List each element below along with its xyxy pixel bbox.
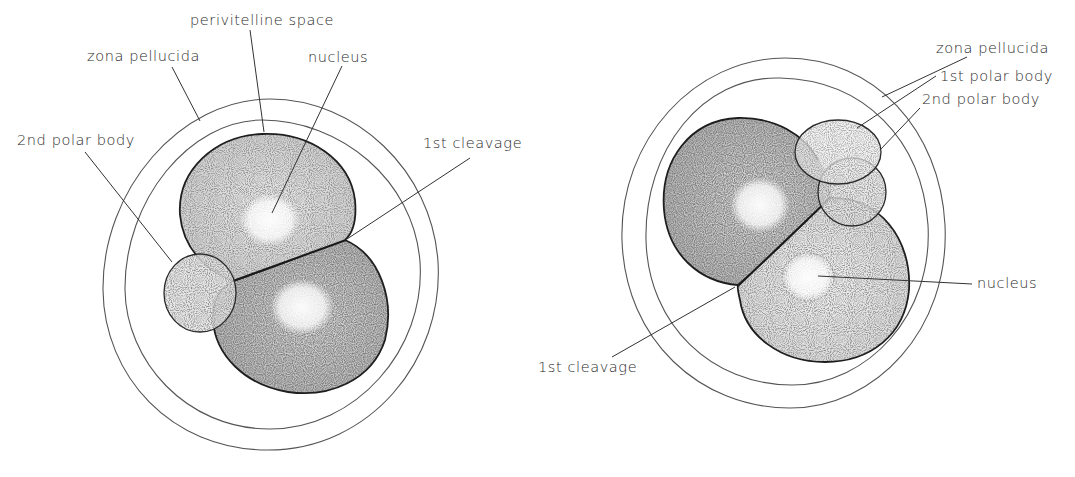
left-leader-polar-body <box>85 152 172 262</box>
right-leader-cleavage <box>612 287 735 357</box>
left-leader-perivitelline <box>250 30 264 132</box>
right-label-first-cleavage: 1st cleavage <box>538 359 637 375</box>
left-leader-cleavage <box>347 158 470 239</box>
left-embryo: perivitelline space zona pellucida nucle… <box>17 12 522 450</box>
right-embryo: zona pellucida 1st polar body 2nd polar … <box>538 40 1053 408</box>
left-label-first-cleavage: 1st cleavage <box>423 135 522 151</box>
left-second-polar-body <box>164 254 236 332</box>
right-label-first-polar-body: 1st polar body <box>940 68 1053 84</box>
left-label-zona-pellucida: zona pellucida <box>87 48 200 64</box>
left-lower-nucleus <box>270 279 334 335</box>
right-label-second-polar-body: 2nd polar body <box>922 91 1040 107</box>
left-label-second-polar-body: 2nd polar body <box>17 132 135 148</box>
right-label-nucleus: nucleus <box>977 275 1037 291</box>
left-upper-nucleus <box>240 194 300 246</box>
right-left-nucleus <box>730 177 790 233</box>
left-label-perivitelline-space: perivitelline space <box>190 12 334 28</box>
right-label-zona-pellucida: zona pellucida <box>936 40 1049 56</box>
left-label-nucleus: nucleus <box>308 49 368 65</box>
two-cell-embryo-figure: perivitelline space zona pellucida nucle… <box>0 0 1075 477</box>
right-leader-second-polar-body <box>880 108 920 150</box>
left-leader-zona <box>172 67 200 121</box>
right-first-polar-body <box>795 120 881 184</box>
